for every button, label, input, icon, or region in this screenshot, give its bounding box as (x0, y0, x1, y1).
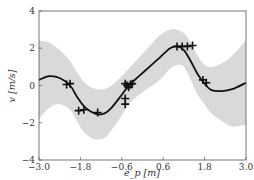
x-tick-label: 3.0 (239, 162, 254, 172)
plot-area (39, 11, 246, 160)
x-tick-label: −1.8 (69, 162, 91, 172)
y-tick-label: 2 (29, 43, 35, 53)
x-tick-label: 1.8 (197, 162, 212, 172)
y-axis-label: v [m/s] (6, 69, 17, 102)
y-tick-label: 0 (29, 81, 35, 91)
y-tick-label: −4 (22, 155, 36, 165)
gp-regression-chart: −3.0−1.8−0.60.61.83.0 −4−2024 e_p [m] v … (0, 0, 254, 180)
y-tick-label: −2 (22, 118, 35, 128)
y-tick-label: 4 (29, 6, 35, 16)
x-axis-label: e_p [m] (124, 167, 160, 179)
